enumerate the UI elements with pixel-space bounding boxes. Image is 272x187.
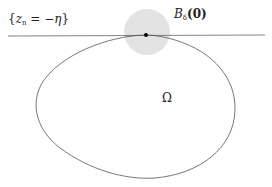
ball-label: Bδ(0) bbox=[174, 8, 207, 22]
domain-label: Ω bbox=[162, 92, 172, 104]
equals-minus: = − bbox=[26, 12, 54, 26]
contact-point bbox=[144, 33, 148, 37]
diagram-canvas bbox=[0, 0, 272, 187]
domain-boundary-curve bbox=[36, 35, 235, 178]
ball-arg: (0) bbox=[187, 7, 207, 21]
brace-close: } bbox=[61, 12, 69, 26]
brace-open: { bbox=[8, 12, 16, 26]
ball-region bbox=[124, 9, 170, 55]
ball-letter: B bbox=[174, 7, 183, 21]
plane-label: {zn = −η} bbox=[8, 13, 69, 27]
